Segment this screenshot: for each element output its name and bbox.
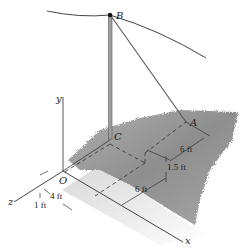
label-z-axis: z [7, 196, 14, 207]
diagram-figure: B A C O y x z 6 ft 1.5 ft 6 ft 4 ft 1 ft [0, 0, 248, 250]
dim-6ft-upper: 6 ft [180, 144, 193, 154]
utility-pole [109, 15, 113, 139]
label-C: C [114, 131, 122, 142]
dim-1ft: 1 ft [34, 200, 47, 210]
dim-1-5ft: 1.5 ft [167, 162, 186, 172]
point-B-marker [108, 13, 112, 17]
dim-6ft-lower: 6 ft [135, 184, 148, 194]
dim-4ft: 4 ft [50, 191, 63, 201]
label-y-axis: y [55, 93, 62, 104]
label-A: A [189, 117, 197, 128]
label-O: O [59, 175, 67, 186]
guy-wire-BA [111, 16, 186, 122]
power-line-wire [47, 11, 206, 58]
label-B: B [115, 10, 123, 21]
label-x-axis: x [185, 235, 191, 246]
